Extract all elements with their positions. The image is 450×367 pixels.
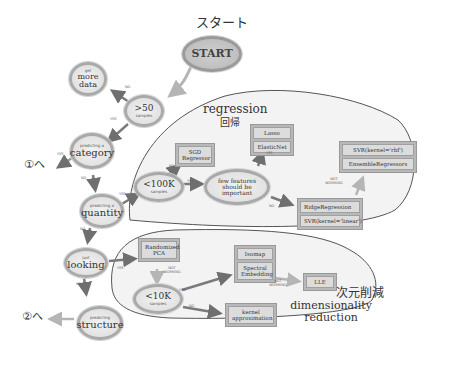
label-notworking-pca: NOT WORKING xyxy=(160,267,184,275)
samples-50-sub: samples xyxy=(136,114,153,118)
samples-50-node[interactable]: >50 samples xyxy=(124,95,164,127)
start-label: START xyxy=(191,48,232,60)
label-yes-pca: YES xyxy=(117,267,124,271)
arrow-category-to-quantity xyxy=(93,175,95,188)
label-yes-100k: YES xyxy=(119,193,126,197)
category-label: category xyxy=(70,148,114,159)
label-no-kernel: NO xyxy=(189,305,194,309)
kernel-approximation-label: kernel approximation xyxy=(228,306,274,324)
regression-title-jp: 回帰 xyxy=(220,117,240,128)
ridge-box[interactable]: RidgeRegression SVR(kernel='linear') xyxy=(297,198,363,230)
start-title-jp: スタート xyxy=(196,16,248,30)
label-notworking-lle: NOT WORKING xyxy=(266,280,290,288)
more-data-node[interactable]: get more data xyxy=(69,62,107,96)
isomap-box[interactable]: Isomap Spectral Embedding xyxy=(234,245,276,283)
exit-to-1[interactable]: ①へ xyxy=(24,159,45,171)
svr-rbf-box[interactable]: SVR(kernel='rbf') EnsembleRegressors xyxy=(339,141,417,173)
category-node[interactable]: predicting a category xyxy=(70,133,114,169)
label-yes-exit1: YES xyxy=(57,153,64,157)
ensemble-regressors-label: EnsembleRegressors xyxy=(342,158,414,170)
label-yes-fewfeatures: YES xyxy=(187,180,194,184)
sgd-regressor-label: SGD Regressor xyxy=(178,146,212,164)
isomap-label: Isomap xyxy=(237,248,273,260)
label-yes-category: YES xyxy=(110,118,117,122)
quantity-label: quantity xyxy=(81,208,123,219)
samples-100k-node[interactable]: <100K samples xyxy=(134,172,184,202)
more-data-label: more data xyxy=(73,73,103,90)
kernel-approximation-box[interactable]: kernel approximation xyxy=(225,303,277,327)
dimred-title: dimensionality reduction xyxy=(286,300,376,324)
samples-100k-sub: samples xyxy=(151,190,168,194)
label-no-looking: NO xyxy=(80,228,85,232)
sgd-regressor-box[interactable]: SGD Regressor xyxy=(175,143,215,167)
arrow-quantity-to-looking xyxy=(88,228,90,240)
looking-label: looking xyxy=(67,260,104,271)
lle-label: LLE xyxy=(306,276,334,288)
few-features-label: few features should be important xyxy=(212,178,262,197)
structure-label: structure xyxy=(76,320,123,331)
svr-rbf-label: SVR(kernel='rbf') xyxy=(342,144,414,156)
samples-10k-node[interactable]: <10K samples xyxy=(133,284,183,314)
spectral-embedding-label: Spectral Embedding xyxy=(237,262,273,280)
label-no-structure: NO xyxy=(76,283,81,287)
svr-linear-label: SVR(kernel='linear') xyxy=(300,215,360,227)
ridge-regression-label: RidgeRegression xyxy=(300,201,360,213)
looking-node[interactable]: just looking xyxy=(64,248,108,278)
lasso-label: Lasso xyxy=(253,127,291,139)
label-no-ridge: NO xyxy=(269,205,274,209)
label-no-sgd: NO xyxy=(169,165,174,169)
label-yes-lasso: YES xyxy=(266,152,273,156)
start-node[interactable]: START xyxy=(182,36,242,72)
lle-box[interactable]: LLE xyxy=(303,273,337,291)
samples-10k-sub: samples xyxy=(150,302,167,306)
label-notworking-svr: NOT WORKING xyxy=(322,178,346,186)
randomized-pca-label: Randomized PCA xyxy=(141,241,177,259)
label-no-quantity: NO xyxy=(81,177,86,181)
quantity-node[interactable]: predicting a quantity xyxy=(80,194,124,228)
exit-to-2[interactable]: ②へ xyxy=(22,311,43,323)
few-features-node[interactable]: few features should be important xyxy=(204,169,270,205)
regression-title: regression xyxy=(203,103,267,116)
label-no-moredata: NO xyxy=(125,86,130,90)
structure-node[interactable]: predicting structure xyxy=(77,306,123,340)
arrow-50-to-category xyxy=(110,124,128,140)
label-yes-isomap: YES xyxy=(179,289,186,293)
arrow-looking-to-structure xyxy=(84,278,86,292)
randomized-pca-box[interactable]: Randomized PCA xyxy=(138,238,180,262)
